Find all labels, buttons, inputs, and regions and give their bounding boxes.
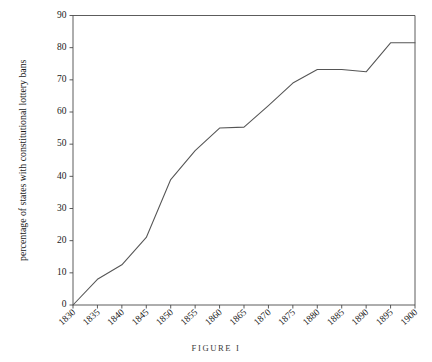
figure-container: 0102030405060708090 18301835184018451850… bbox=[0, 0, 432, 362]
y-tick-label: 10 bbox=[57, 267, 67, 277]
y-tick-label: 80 bbox=[57, 42, 67, 52]
x-tick-label: 1885 bbox=[325, 307, 346, 327]
x-tick-label: 1860 bbox=[203, 307, 224, 327]
y-axis-title: percentage of states with constitutional… bbox=[17, 59, 28, 261]
x-tick-label: 1835 bbox=[81, 307, 102, 327]
x-tick-label: 1845 bbox=[130, 307, 151, 327]
y-tick-label: 50 bbox=[57, 138, 67, 148]
x-tick-label: 1880 bbox=[301, 307, 322, 327]
y-tick-label: 70 bbox=[57, 74, 67, 84]
x-tick-label: 1900 bbox=[399, 307, 420, 327]
y-axis-title-label: percentage of states with constitutional… bbox=[17, 59, 28, 261]
x-tick-label: 1865 bbox=[228, 307, 249, 327]
y-tick-label: 0 bbox=[62, 299, 67, 309]
line-chart: 0102030405060708090 18301835184018451850… bbox=[0, 0, 432, 362]
data-series-line bbox=[73, 43, 415, 305]
y-axis-ticks: 0102030405060708090 bbox=[57, 10, 73, 310]
x-tick-label: 1840 bbox=[105, 307, 126, 327]
y-tick-label: 30 bbox=[57, 203, 67, 213]
y-tick-label: 60 bbox=[57, 106, 67, 116]
x-tick-label: 1895 bbox=[374, 307, 395, 327]
x-tick-label: 1890 bbox=[350, 307, 371, 327]
x-tick-label: 1855 bbox=[179, 307, 200, 327]
y-tick-label: 20 bbox=[57, 235, 67, 245]
x-tick-label: 1870 bbox=[252, 307, 273, 327]
x-tick-label: 1850 bbox=[154, 307, 175, 327]
y-tick-label: 90 bbox=[57, 10, 67, 20]
x-axis-ticks: 1830183518401845185018551860186518701875… bbox=[57, 305, 420, 327]
figure-caption: FIGURE I bbox=[0, 343, 432, 353]
x-tick-label: 1830 bbox=[57, 307, 78, 327]
x-tick-label: 1875 bbox=[276, 307, 297, 327]
y-tick-label: 40 bbox=[57, 171, 67, 181]
series-polyline bbox=[73, 43, 415, 305]
